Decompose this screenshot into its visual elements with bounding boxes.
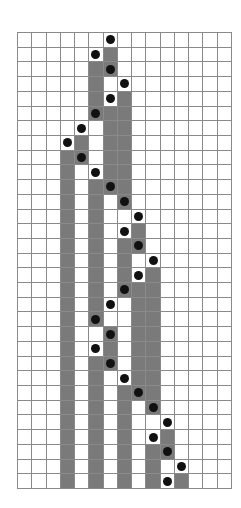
grid-cell [188,370,202,385]
grid-cell [117,311,131,326]
shaded-cell [131,341,145,356]
grid-cell [217,135,231,150]
dot-marker [77,124,86,133]
shaded-cell [88,414,102,429]
grid-cell [202,238,216,253]
grid-cell [103,385,117,400]
grid-cell [46,120,60,135]
grid-cell [217,356,231,371]
shaded-cell [145,282,159,297]
grid-cell [117,223,131,238]
grid-cell [174,120,188,135]
grid-cell [103,32,117,47]
shaded-cell [60,429,74,444]
dot-marker [106,300,115,309]
shaded-cell [145,370,159,385]
grid-cell [174,356,188,371]
grid-cell [74,32,88,47]
dot-marker [106,94,115,103]
grid-cell [202,356,216,371]
grid-cell [202,223,216,238]
shaded-cell [60,164,74,179]
shaded-cell [103,326,117,341]
grid-cell [174,253,188,268]
grid-cell [46,194,60,209]
grid-cell [174,106,188,121]
grid-cell [17,253,31,268]
grid-cell [31,61,45,76]
grid-cell [217,150,231,165]
grid-cell [74,106,88,121]
shaded-cell [117,106,131,121]
grid-cell [17,164,31,179]
grid-cell [103,297,117,312]
grid-cell [46,400,60,415]
grid-cell [46,326,60,341]
grid-cell [74,47,88,62]
grid-cell [174,179,188,194]
grid-cell [217,209,231,224]
grid-cell [217,194,231,209]
shaded-cell [88,106,102,121]
grid-cell [74,282,88,297]
grid-cell [145,61,159,76]
grid-cell [174,341,188,356]
shaded-cell [145,356,159,371]
grid-cell [103,414,117,429]
dot-grid-diagram [17,32,232,489]
grid-cell [160,209,174,224]
grid-cell [131,76,145,91]
grid-cell [160,282,174,297]
grid-cell [103,459,117,474]
grid-cell [202,297,216,312]
dot-marker [120,285,129,294]
grid-cell [31,238,45,253]
grid-cell [160,120,174,135]
grid-cell [31,311,45,326]
shaded-cell [60,473,74,488]
grid-cell [31,106,45,121]
shaded-cell [117,385,131,400]
grid-cell [46,209,60,224]
grid-cell [145,32,159,47]
grid-cell [160,400,174,415]
grid-cell [17,473,31,488]
grid-cell [88,164,102,179]
shaded-cell [117,267,131,282]
grid-cell [202,267,216,282]
dot-marker [91,109,100,118]
grid-cell [160,91,174,106]
grid-cell [74,253,88,268]
grid-cell [74,414,88,429]
grid-cell [31,253,45,268]
dot-marker [91,315,100,324]
grid-cell [117,32,131,47]
grid-cell [145,106,159,121]
grid-cell [160,385,174,400]
grid-cell [188,356,202,371]
grid-cell [46,267,60,282]
grid-cell [103,267,117,282]
dot-marker [177,462,186,471]
shaded-cell [103,164,117,179]
grid-cell [74,297,88,312]
grid-cell [160,341,174,356]
shaded-cell [88,459,102,474]
shaded-cell [60,414,74,429]
shaded-cell [160,444,174,459]
grid-cell [174,238,188,253]
grid-cell [217,444,231,459]
grid-cell [131,444,145,459]
shaded-cell [88,76,102,91]
grid-cell [31,91,45,106]
shaded-cell [131,385,145,400]
grid-cell [160,179,174,194]
grid-cell [74,311,88,326]
grid-cell [31,32,45,47]
shaded-cell [88,370,102,385]
grid-cell [131,253,145,268]
grid-cell [17,267,31,282]
shaded-cell [60,194,74,209]
grid-cell [145,223,159,238]
grid-cell [131,106,145,121]
